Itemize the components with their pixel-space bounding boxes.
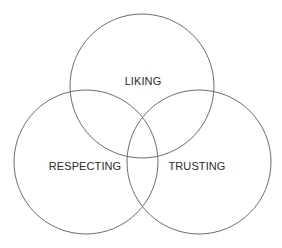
liking-label: LIKING <box>125 75 162 87</box>
venn-diagram-canvas: LIKING RESPECTING TRUSTING <box>0 0 282 248</box>
trusting-label: TRUSTING <box>168 160 225 172</box>
venn-diagram: LIKING RESPECTING TRUSTING <box>0 0 282 248</box>
respecting-label: RESPECTING <box>49 160 122 172</box>
